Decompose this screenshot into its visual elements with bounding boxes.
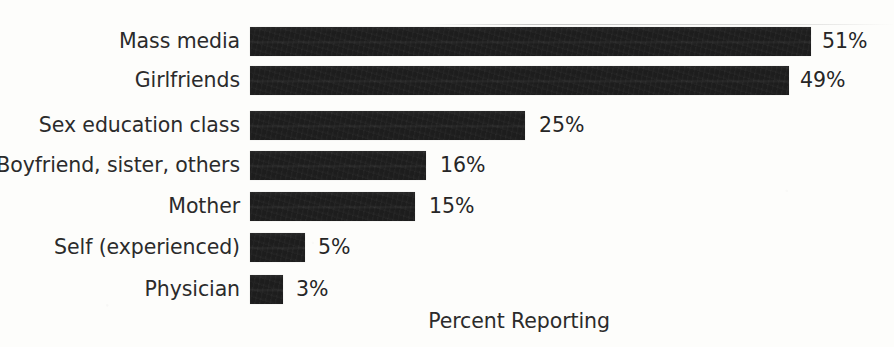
bar-value-label: 16% [440, 155, 485, 176]
bar [250, 192, 415, 221]
bar [250, 111, 525, 140]
x-axis-caption: Percent Reporting [0, 311, 894, 332]
bar [250, 275, 283, 304]
category-label: Boyfriend, sister, others [0, 155, 240, 176]
bar [250, 151, 426, 180]
category-label: Sex education class [39, 115, 240, 136]
horizontal-bar-chart: Mass media 51% Girlfriends 49% Sex educa… [0, 0, 894, 347]
bar-value-label: 3% [296, 279, 328, 300]
bar-value-label: 15% [429, 196, 474, 217]
category-label: Physician [145, 279, 240, 300]
bar [250, 27, 811, 56]
x-axis-caption-text: Percent Reporting [428, 311, 610, 332]
category-label: Mother [168, 196, 240, 217]
bar-value-label: 49% [800, 70, 845, 91]
category-label: Self (experienced) [54, 237, 240, 258]
bar [250, 66, 789, 95]
bar [250, 233, 305, 262]
bar-value-label: 51% [822, 31, 867, 52]
bar-value-label: 5% [318, 237, 350, 258]
bar-value-label: 25% [539, 115, 584, 136]
category-label: Girlfriends [135, 70, 240, 91]
category-label: Mass media [119, 31, 240, 52]
